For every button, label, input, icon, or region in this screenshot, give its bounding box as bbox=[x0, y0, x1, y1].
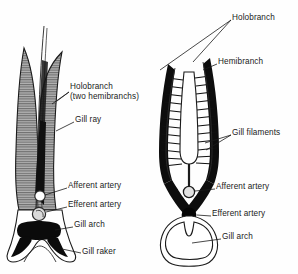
left-gill-longitudinal bbox=[7, 26, 81, 262]
label-efferent-artery-left: Efferent artery bbox=[68, 200, 121, 210]
label-gill-filaments: Gill filaments bbox=[232, 128, 280, 138]
label-holobranch-left: Holobranch (two hemibranchs) bbox=[70, 82, 139, 101]
afferent-artery-circle bbox=[183, 186, 194, 197]
leader-holobranch-left-2 bbox=[57, 92, 69, 101]
label-afferent-artery-left: Afferent artery bbox=[68, 181, 121, 191]
label-afferent-artery-right: Afferent artery bbox=[216, 182, 269, 192]
label-gill-arch-left: Gill arch bbox=[74, 220, 105, 230]
leader-efferent-right bbox=[197, 215, 211, 216]
leader-holobranch-b bbox=[193, 20, 231, 62]
label-hemibranch: Hemibranch bbox=[218, 57, 263, 67]
central-septum bbox=[180, 72, 198, 164]
leader-gill-ray bbox=[56, 122, 74, 131]
label-efferent-artery-right: Efferent artery bbox=[212, 209, 265, 219]
label-gill-raker: Gill raker bbox=[82, 247, 116, 257]
label-gill-ray: Gill ray bbox=[75, 115, 101, 125]
efferent-artery-circle bbox=[32, 207, 45, 220]
label-gill-arch-right: Gill arch bbox=[222, 232, 253, 242]
label-holobranch-right: Holobranch bbox=[232, 13, 275, 23]
gill-anatomy-figure: Holobranch (two hemibranchs) Gill ray Af… bbox=[0, 0, 298, 274]
afferent-artery-circle bbox=[35, 191, 45, 201]
